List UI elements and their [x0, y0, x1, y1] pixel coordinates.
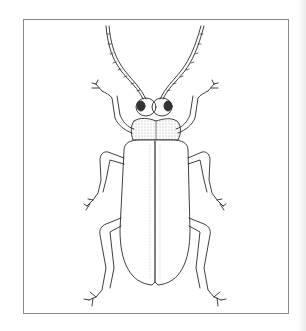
right-hindleg [189, 218, 221, 300]
left-midleg [87, 152, 124, 206]
left-antenna [106, 26, 143, 99]
left-hindleg [89, 218, 121, 300]
right-midleg [188, 152, 223, 206]
beetle-illustration [0, 0, 306, 331]
